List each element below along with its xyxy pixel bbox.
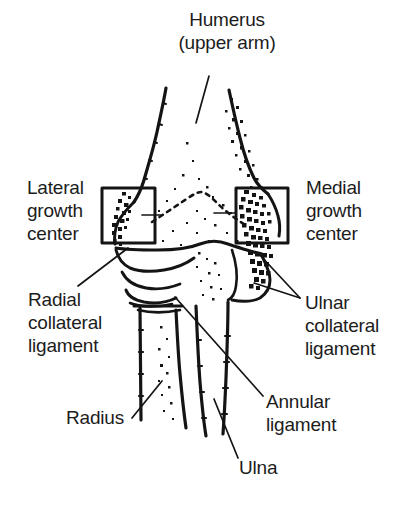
radial-neck-left — [126, 290, 176, 303]
humerus-right-cortex — [229, 90, 268, 194]
radial-collateral-ligament-leader — [78, 248, 128, 286]
trochlea-stipple — [158, 142, 239, 246]
humerus-right-cortex-stipple — [225, 98, 263, 189]
label-ulna: Ulna — [239, 456, 277, 479]
radius-leader — [132, 381, 162, 418]
humerus-leader — [196, 76, 209, 123]
trochlea-ridge — [152, 192, 244, 224]
label-radial-collateral-ligament: Radial collateral ligament — [28, 288, 102, 357]
humerus-left-cortex — [134, 88, 166, 202]
olecranon-shadow — [228, 250, 237, 300]
label-radius: Radius — [66, 406, 124, 429]
bone-illustration — [0, 0, 404, 511]
label-lateral-growth-center: Lateral growth center — [27, 176, 84, 245]
label-humerus: Humerus (upper arm) — [152, 8, 302, 54]
joint-space-stipple — [196, 252, 222, 301]
label-medial-growth-center: Medial growth center — [306, 176, 362, 245]
label-annular-ligament: Annular ligament — [266, 390, 336, 436]
radius-shaft-stipple — [158, 326, 174, 420]
annular-ligament-leader — [175, 297, 263, 396]
label-ulnar-collateral-ligament: Ulnar collateral ligament — [305, 291, 379, 360]
annular-ligament-band-lower — [138, 310, 180, 312]
radius-shaft-right — [176, 310, 186, 428]
radius-shaft-left — [140, 308, 141, 420]
radial-head-lower — [122, 272, 180, 289]
radial-head-outline — [116, 250, 194, 271]
elbow-anatomy-figure: Humerus (upper arm) Lateral growth cente… — [0, 0, 404, 511]
